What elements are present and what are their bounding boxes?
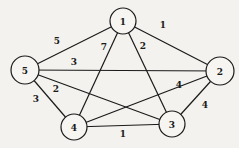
- edge-weight-1-5: 5: [54, 36, 60, 46]
- node-label: 5: [22, 66, 28, 76]
- node-label: 2: [217, 67, 223, 77]
- edge-weight-1-2: 1: [160, 20, 166, 30]
- edge-weight-1-4: 7: [101, 42, 107, 52]
- node-2: 2: [206, 57, 234, 85]
- edge-4-3: [74, 124, 172, 127]
- edge-weight-4-3: 1: [120, 129, 126, 139]
- edge-weight-1-3: 2: [140, 41, 146, 51]
- node-label: 4: [71, 123, 77, 133]
- edge-5-2: [25, 70, 220, 71]
- edge-1-2: [123, 21, 220, 71]
- node-label: 1: [120, 17, 126, 27]
- edge-weight-5-2: 3: [71, 57, 77, 67]
- node-1: 1: [110, 8, 136, 34]
- weighted-graph-diagram: 5172323441 12345: [0, 0, 239, 148]
- edge-weight-5-4: 3: [33, 94, 39, 104]
- edge-weight-5-3: 2: [53, 84, 59, 94]
- node-4: 4: [61, 114, 87, 140]
- node-3: 3: [159, 111, 185, 137]
- edge-weight-2-3: 4: [202, 100, 208, 110]
- nodes-layer: 12345: [11, 8, 234, 140]
- node-5: 5: [11, 56, 39, 84]
- node-label: 3: [169, 120, 175, 130]
- edge-weight-2-4: 4: [176, 80, 182, 90]
